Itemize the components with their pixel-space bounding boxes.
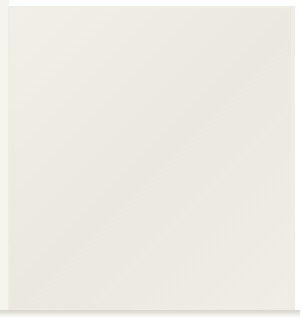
- board-grid: [0, 0, 302, 318]
- page-bottom-shadow: [0, 310, 300, 318]
- go-diagram-scene: [0, 0, 302, 318]
